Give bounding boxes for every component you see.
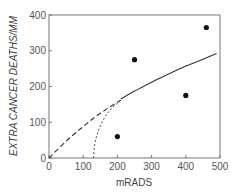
x-tick-label: 400 bbox=[177, 161, 194, 172]
data-point bbox=[115, 134, 120, 139]
data-point bbox=[183, 93, 188, 98]
y-tick-label: 0 bbox=[40, 153, 46, 164]
data-point bbox=[204, 25, 209, 30]
y-tick-label: 400 bbox=[29, 10, 46, 21]
plot-frame bbox=[49, 15, 220, 158]
x-tick-label: 500 bbox=[212, 161, 229, 172]
y-tick-label: 200 bbox=[29, 81, 46, 92]
axes bbox=[49, 15, 220, 158]
x-tick-label: 0 bbox=[46, 161, 52, 172]
x-axis-label: mRADS bbox=[116, 177, 152, 188]
dashed-line bbox=[49, 100, 121, 158]
x-tick-label: 300 bbox=[143, 161, 160, 172]
y-tick-label: 100 bbox=[29, 117, 46, 128]
y-axis-label: EXTRA CANCER DEATHS/MM bbox=[8, 15, 19, 156]
ticks: 01002003004005000100200300400 bbox=[29, 10, 228, 173]
chart: 01002003004005000100200300400 mRADS EXTR… bbox=[0, 0, 240, 193]
y-tick-label: 300 bbox=[29, 45, 46, 56]
x-tick-label: 200 bbox=[109, 161, 126, 172]
data-point bbox=[132, 57, 137, 62]
x-tick-label: 100 bbox=[75, 161, 92, 172]
series-layer bbox=[49, 25, 217, 158]
